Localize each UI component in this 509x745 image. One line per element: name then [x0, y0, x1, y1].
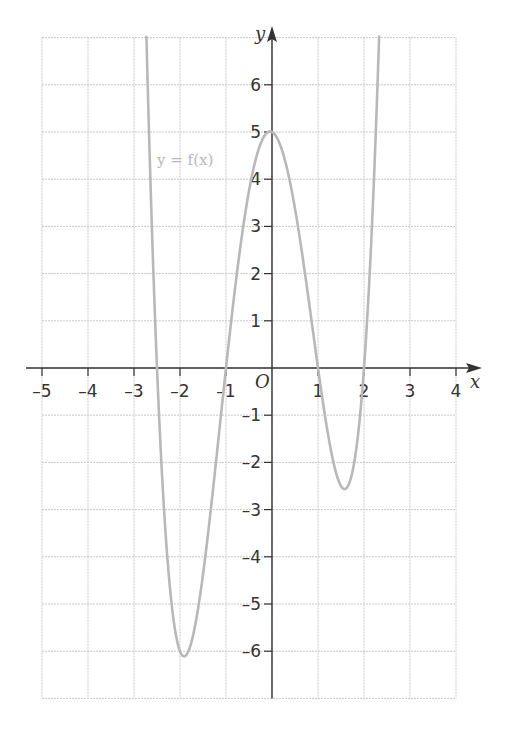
y-tick-label: –1	[242, 405, 261, 425]
y-tick-label: 5	[250, 122, 261, 142]
y-tick-label: 6	[250, 75, 261, 95]
x-tick-label: –3	[124, 381, 143, 401]
x-tick-label: 4	[451, 381, 462, 401]
function-graph: –5–4–3–2–11234–6–5–4–3–2–1123456 y = f(x…	[0, 0, 509, 745]
y-tick-label: 2	[250, 264, 261, 284]
x-axis-label: x	[470, 371, 480, 392]
curve-f-of-x	[146, 35, 379, 657]
y-tick-label: 1	[250, 311, 261, 331]
y-tick-label: –2	[242, 452, 261, 472]
origin-label: O	[255, 371, 270, 392]
x-tick-label: –5	[32, 381, 51, 401]
y-tick-label: –4	[242, 547, 261, 567]
curve-label: y = f(x)	[156, 151, 213, 169]
x-tick-label: –2	[170, 381, 189, 401]
x-tick-label: –4	[78, 381, 97, 401]
y-tick-label: 3	[250, 216, 261, 236]
y-tick-label: –5	[242, 594, 261, 614]
x-tick-label: –1	[216, 381, 235, 401]
y-axis-label: y	[254, 23, 266, 44]
y-tick-label: –3	[242, 500, 261, 520]
y-tick-label: –6	[242, 641, 261, 661]
x-tick-label: 3	[405, 381, 416, 401]
